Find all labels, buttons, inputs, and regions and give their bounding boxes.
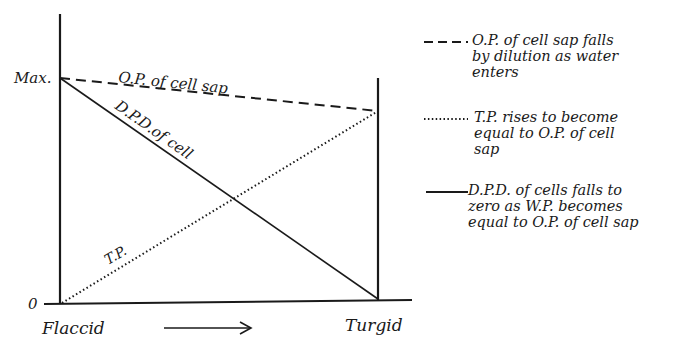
solid-line-sample-icon [424,186,468,198]
right-arrow-icon [164,322,251,334]
legend-dpd-line-1: D.P.D. of cells falls to [468,182,639,198]
legend-tp-line-2: equal to O.P. of cell [474,125,618,141]
legend-dpd-line-3: equal to O.P. of cell sap [468,214,639,230]
dpd-curve-label: D.P.D.of cell [111,96,196,163]
dotted-line-sample-icon [424,113,468,125]
legend-dpd-line-2: zero as W.P. becomes [468,198,639,214]
max-label: Max. [13,69,52,87]
turgid-label: Turgid [345,315,403,335]
legend-op-line-3: enters [472,64,618,80]
baseline-axis [44,300,412,304]
legend-op-line-1: O.P. of cell sap falls [472,32,618,48]
legend-op-line-2: by dilution as water [472,48,618,64]
op-curve-label: O.P. of cell sap [118,68,230,97]
legend-tp-line-1: T.P. rises to become [474,109,618,125]
dashed-line-sample-icon [424,36,468,48]
tp-line-dotted [62,111,378,303]
flaccid-label: Flaccid [41,318,105,338]
legend-tp-line-3: sap [474,141,618,157]
zero-label: 0 [28,295,38,313]
